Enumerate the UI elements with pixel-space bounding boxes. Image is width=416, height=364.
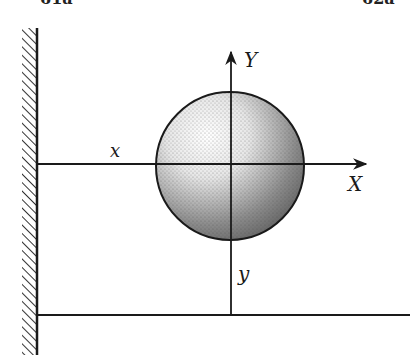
x-axis-label: X [348,174,362,194]
x-distance-label: x [110,142,120,160]
sphere [156,92,304,240]
y-distance-label: y [238,264,249,284]
wall [22,28,37,355]
y-axis-label: Y [244,50,257,70]
diagram-figure: 61a 62a [0,0,416,364]
